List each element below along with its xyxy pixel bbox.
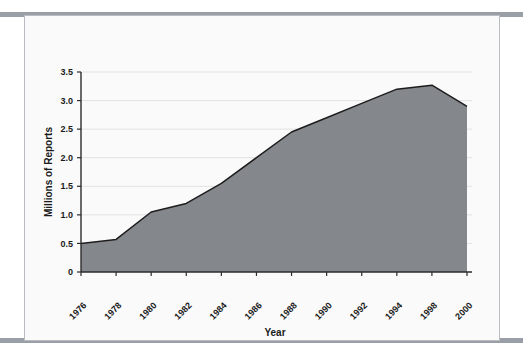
x-axis-tick-label: 1978 — [102, 300, 123, 321]
x-axis-tick-label: 1998 — [418, 300, 439, 321]
chart-plot-area: 00.51.01.52.02.53.03.5 19761978198019821… — [0, 0, 523, 364]
x-axis-tick-label: 1976 — [67, 300, 88, 321]
y-axis-tick-label: 1.5 — [60, 181, 73, 191]
x-axis-tick-label: 1990 — [313, 300, 334, 321]
x-axis-title: Year — [264, 327, 285, 338]
x-axis-tick-label: 1980 — [137, 300, 158, 321]
y-axis-tick-label: 2.5 — [60, 124, 73, 134]
y-axis-tick-label: 3.5 — [60, 67, 73, 77]
y-axis-tick-label: 2.0 — [60, 153, 73, 163]
figure-page: 00.51.01.52.02.53.03.5 19761978198019821… — [0, 0, 523, 364]
x-axis-tick-label: 1994 — [383, 300, 404, 321]
area-chart-svg: 00.51.01.52.02.53.03.5 19761978198019821… — [0, 0, 523, 364]
x-axis-tick-label: 1982 — [172, 300, 193, 321]
y-axis-title: Millions of Reports — [43, 127, 54, 217]
x-axis-ticks-group: 1976197819801982198419861988199019921994… — [67, 272, 474, 322]
x-axis-tick-label: 1988 — [278, 300, 299, 321]
x-axis-tick-label: 1986 — [243, 300, 264, 321]
x-axis-tick-label: 1984 — [208, 300, 229, 321]
area-series-fill — [81, 85, 467, 272]
y-axis-tick-label: 3.0 — [60, 96, 73, 106]
y-axis-tick-label: 1.0 — [60, 210, 73, 220]
x-axis-tick-label: 1992 — [348, 300, 369, 321]
y-axis-ticks-group: 00.51.01.52.02.53.03.5 — [60, 67, 81, 277]
y-axis-tick-label: 0.5 — [60, 239, 73, 249]
y-axis-tick-label: 0 — [68, 267, 73, 277]
x-axis-tick-label: 2000 — [453, 300, 474, 321]
